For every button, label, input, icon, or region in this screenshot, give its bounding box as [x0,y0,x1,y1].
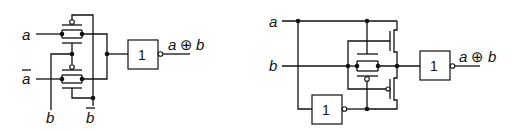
output-label-a: a [168,36,176,53]
inverter-label: 1 [322,102,330,118]
input-label-b: b [269,57,277,74]
input-label-b: b [46,109,54,126]
left-gate-label: 1 [138,47,146,63]
input-label-a: a [22,26,30,43]
xor-circuit-diagrams: a a b b [0,0,518,131]
input-label-b-bar: b [86,109,94,126]
output-label-xor: ⊕ [471,48,484,66]
inverter-bubble [158,52,163,57]
output-label-b: b [488,48,496,65]
wire-b-bar-top [72,15,93,98]
wire-tg-outputs [82,34,107,79]
output-label-xor: ⊕ [180,36,193,54]
right-gate-label: 1 [430,58,438,74]
upper-transmission-gate [60,20,85,43]
lower-transmission-gate [60,65,85,88]
pmos-transistor [367,66,397,109]
output-label-b: b [196,36,204,53]
right-xor-circuit: a b [269,13,496,124]
left-xor-circuit: a a b b [22,15,204,126]
output-label-a: a [459,48,467,65]
nmos-transistor [394,21,397,66]
input-label-a-bar: a [22,70,30,87]
input-label-a: a [269,13,277,30]
center-transmission-gate [355,54,381,81]
